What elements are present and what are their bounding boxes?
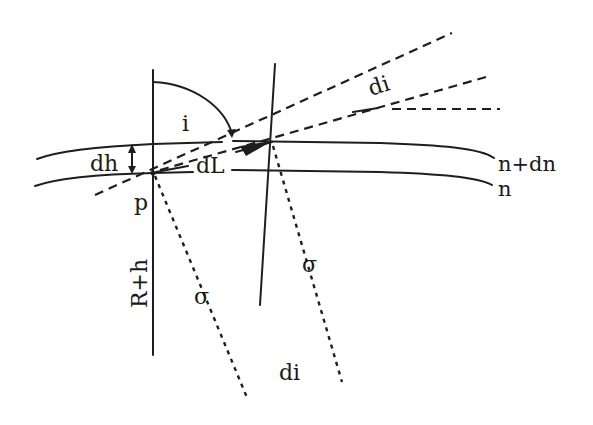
layer-upper-right xyxy=(233,141,494,158)
layer-lower-right xyxy=(232,170,492,185)
label-sigma-right: σ xyxy=(302,252,317,277)
angle-i-arrowhead xyxy=(227,129,236,138)
label-point-p: p xyxy=(134,190,148,215)
label-layer-lower: n xyxy=(498,177,512,201)
label-dh: dh xyxy=(90,151,118,176)
normal-line-right xyxy=(260,64,275,305)
label-angle-i: i xyxy=(182,111,189,136)
label-sigma-left: σ xyxy=(194,284,209,309)
point-p-marker xyxy=(151,171,156,176)
label-layer-upper: n+dn xyxy=(498,152,556,176)
dh-arrow xyxy=(128,144,136,174)
label-radius: R+h xyxy=(127,259,152,308)
angle-i-arc xyxy=(153,82,232,134)
label-di-top: di xyxy=(365,70,393,100)
label-di-bottom: di xyxy=(279,360,300,385)
label-dL: dL xyxy=(196,153,225,178)
refraction-diagram: i dh dL p R+h σ σ di di n+dn n xyxy=(0,0,593,425)
